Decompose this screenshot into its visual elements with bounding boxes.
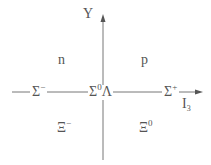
xi-zero-charge: 0 [148,118,153,128]
sigma-plus-symbol: Σ [164,84,172,99]
xi-zero-symbol: Ξ [139,120,148,135]
particle-xi-minus: Ξ− [57,121,71,136]
y-axis-label: Y [83,7,93,21]
x-axis-arrow-icon [195,90,203,95]
y-axis-arrow-icon [101,14,106,22]
sigma-plus-charge: + [172,82,177,92]
sigma-minus-symbol: Σ [32,84,40,99]
lambda-symbol: Λ [102,84,112,99]
x-axis-label-main: I [182,96,187,111]
xi-minus-symbol: Ξ [57,120,66,135]
sigma-minus-charge: − [40,82,45,92]
particle-xi-zero: Ξ0 [139,121,153,136]
particle-sigma-minus: Σ− [30,85,47,100]
x-axis-label: I3 [182,97,191,113]
sigma0-charge: 0 [97,82,102,92]
xi-minus-charge: − [66,118,71,128]
particle-p: p [141,53,148,67]
particle-sigma-plus: Σ+ [162,85,179,100]
sigma0-symbol: Σ [89,84,97,99]
axes [0,0,211,165]
x-axis-label-sub: 3 [187,104,191,113]
particle-sigma0-lambda: Σ0Λ [88,85,113,100]
particle-n: n [58,53,65,67]
